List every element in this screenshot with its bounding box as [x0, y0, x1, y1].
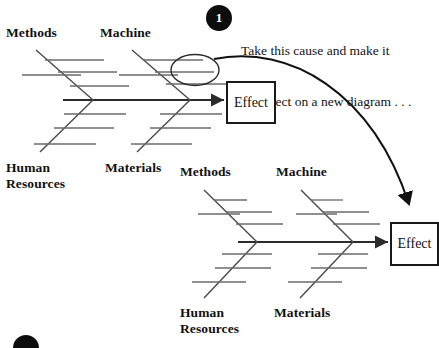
badge-2-clipped	[13, 335, 39, 348]
bottom-label-materials: Materials	[274, 305, 330, 320]
top-fishbone-skeleton	[22, 50, 226, 152]
top-label-human-resources: Human Resources	[6, 160, 65, 192]
callout-badge-1: 1	[206, 5, 232, 31]
bottom-rib-materials	[300, 242, 353, 298]
bottom-label-machine: Machine	[276, 164, 327, 179]
top-label-methods: Methods	[6, 25, 57, 40]
fishbone-illustration: 1 Take this cause and make it the effect…	[0, 0, 439, 348]
bottom-effect-label: Effect	[398, 236, 432, 252]
highlight-ellipse	[171, 55, 219, 86]
callout-line-1: Take this cause and make it	[241, 42, 411, 59]
bottom-fishbone-skeleton	[192, 190, 388, 298]
top-label-machine: Machine	[100, 25, 151, 40]
callout-badge-number: 1	[216, 10, 223, 26]
top-effect-box: Effect	[226, 81, 276, 124]
bottom-label-human-resources: Human Resources	[180, 305, 239, 337]
bottom-effect-box: Effect	[390, 222, 439, 266]
bottom-label-methods: Methods	[180, 164, 231, 179]
bottom-rib-methods	[204, 190, 257, 242]
top-effect-label: Effect	[234, 95, 268, 111]
bottom-rib-human-resources	[204, 242, 257, 298]
bottom-rib-machine	[301, 190, 353, 242]
top-label-materials: Materials	[105, 160, 161, 175]
